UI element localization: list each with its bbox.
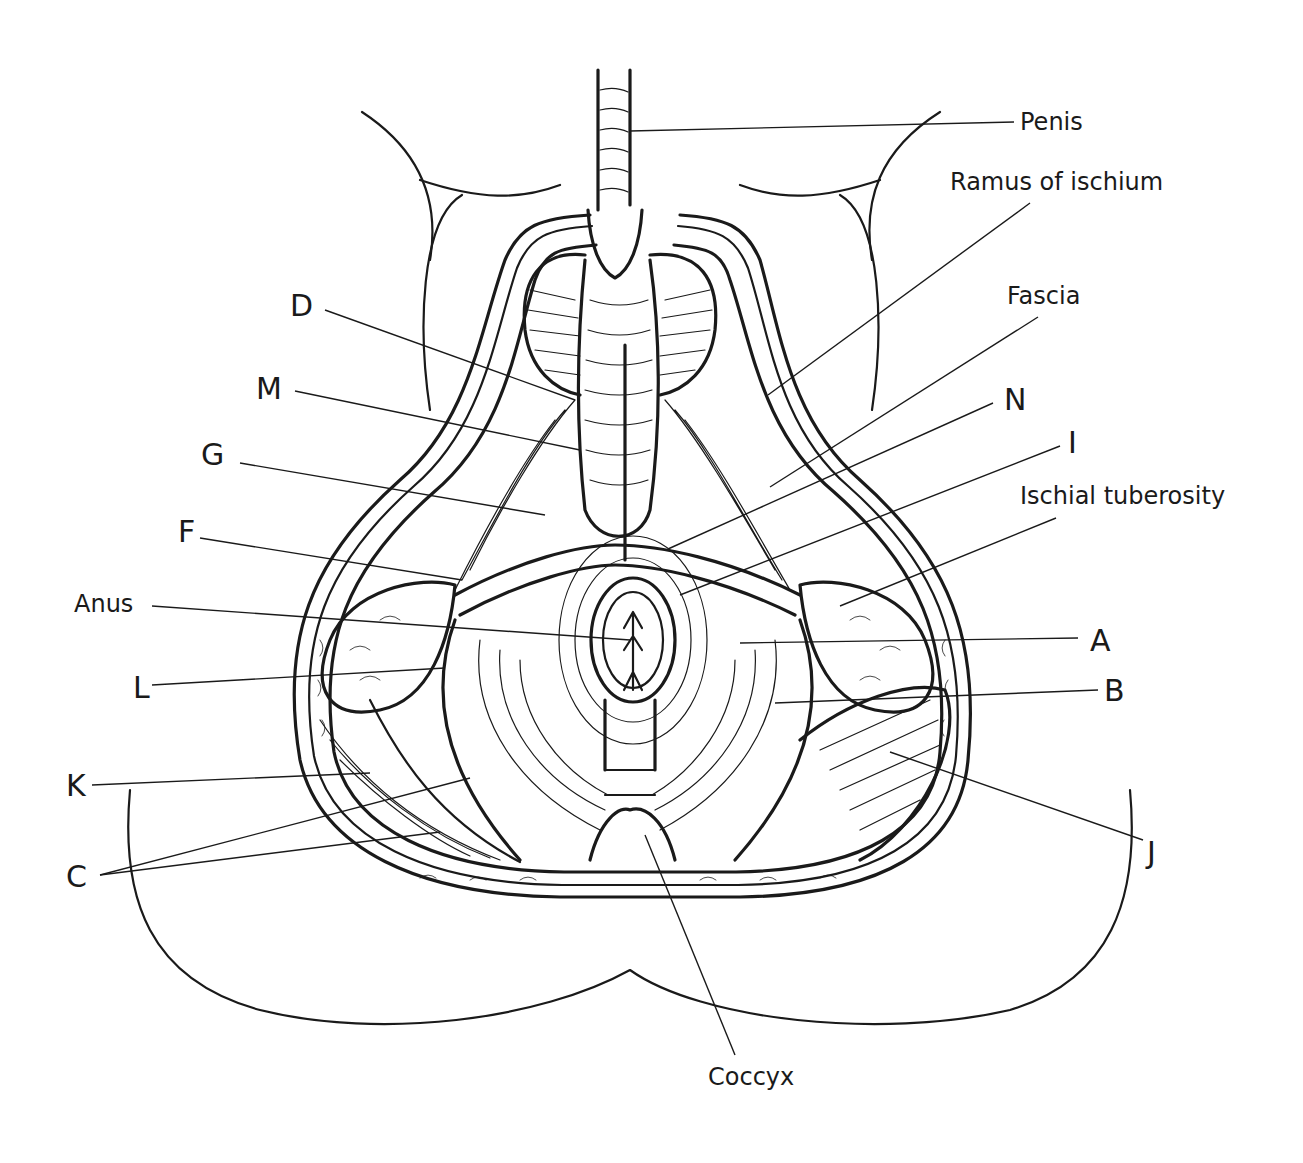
- label-d: D: [290, 291, 313, 321]
- leader-line-fascia: [770, 317, 1038, 487]
- label-a: A: [1090, 626, 1111, 656]
- leader-line-N: [668, 403, 993, 549]
- label-f: F: [178, 517, 195, 547]
- label-ischial-tuberosity: Ischial tuberosity: [1020, 484, 1225, 508]
- label-b: B: [1104, 676, 1125, 706]
- body-contours: [128, 112, 1132, 1024]
- label-m: M: [256, 374, 282, 404]
- leader-line-C: [100, 832, 440, 875]
- leader-line-B: [775, 690, 1098, 703]
- label-coccyx: Coccyx: [708, 1065, 794, 1089]
- leader-line-A: [740, 638, 1078, 643]
- leader-line-D: [325, 310, 575, 400]
- leader-line-penis: [630, 122, 1014, 131]
- leader-line-ramus: [768, 203, 1030, 395]
- leader-line-L: [152, 668, 445, 685]
- label-penis: Penis: [1020, 110, 1083, 134]
- label-ramus-of-ischium: Ramus of ischium: [950, 170, 1163, 194]
- perineum-diagram: Penis Ramus of ischium Fascia N I Ischia…: [0, 0, 1303, 1163]
- label-anus: Anus: [74, 592, 133, 616]
- label-l: L: [133, 673, 150, 703]
- label-fascia: Fascia: [1007, 284, 1080, 308]
- penis-shaft: [588, 70, 642, 278]
- label-k: K: [66, 771, 86, 801]
- label-g: G: [201, 440, 224, 470]
- label-n: N: [1004, 385, 1026, 415]
- label-j: J: [1147, 838, 1156, 868]
- leader-line-F: [200, 538, 462, 580]
- levator-ani: [320, 620, 950, 862]
- leader-line-M: [295, 391, 580, 450]
- leader-lines: [92, 122, 1143, 1055]
- label-c: C: [66, 862, 87, 892]
- leader-line-coccyx: [645, 835, 735, 1055]
- ischial-tuberosities: [322, 582, 932, 712]
- leader-line-I: [680, 446, 1060, 595]
- leader-line-anus: [152, 606, 630, 640]
- label-i: I: [1068, 428, 1077, 458]
- leader-line-K: [92, 773, 370, 785]
